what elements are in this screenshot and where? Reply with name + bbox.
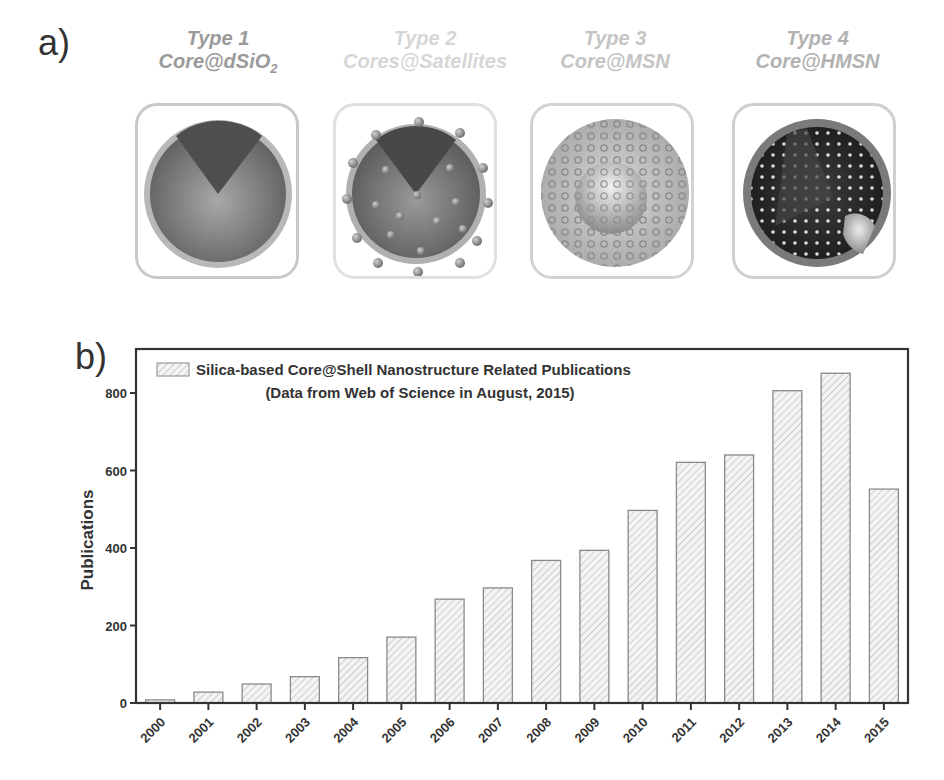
bar-2012 <box>725 455 754 703</box>
x-tick-label: 2011 <box>668 715 699 746</box>
bar-2014 <box>821 373 850 703</box>
bars-group <box>146 373 899 703</box>
bar-2010 <box>628 510 657 703</box>
x-tick-label: 2014 <box>813 714 845 746</box>
legend-swatch <box>157 363 189 376</box>
bar-2001 <box>194 692 223 703</box>
bar-2015 <box>869 489 898 703</box>
x-tick-label: 2003 <box>282 715 313 746</box>
x-tick-label: 2007 <box>475 715 506 746</box>
x-tick-label: 2000 <box>137 715 168 746</box>
bar-2004 <box>339 658 368 703</box>
y-tick-label: 800 <box>105 386 127 401</box>
bar-2009 <box>580 550 609 703</box>
publications-bar-chart: 0200400600800 20002001200220032004200520… <box>0 0 944 780</box>
bar-2005 <box>387 637 416 703</box>
legend-line-1: Silica-based Core@Shell Nanostructure Re… <box>196 361 631 378</box>
x-tick-label: 2008 <box>523 715 554 746</box>
bar-2013 <box>773 391 802 703</box>
y-tick-label: 400 <box>105 541 127 556</box>
bar-2008 <box>532 560 561 703</box>
bar-2003 <box>290 677 319 703</box>
y-axis-label: Publications <box>78 489 97 590</box>
x-tick-label: 2006 <box>427 715 458 746</box>
x-tick-label: 2013 <box>764 715 795 746</box>
legend-line-2: (Data from Web of Science in August, 201… <box>265 384 574 401</box>
bar-2007 <box>483 588 512 703</box>
x-tick-label: 2004 <box>330 714 362 746</box>
x-tick-label: 2015 <box>861 715 892 746</box>
x-axis: 2000200120022003200420052006200720082009… <box>137 703 892 746</box>
x-tick-label: 2001 <box>185 715 216 746</box>
y-tick-label: 600 <box>105 464 127 479</box>
bar-2006 <box>435 599 464 703</box>
x-tick-label: 2010 <box>620 715 651 746</box>
bar-2011 <box>676 462 705 703</box>
y-tick-label: 200 <box>105 619 127 634</box>
x-tick-label: 2005 <box>378 715 409 746</box>
x-tick-label: 2002 <box>234 715 265 746</box>
bar-2002 <box>242 684 271 703</box>
x-tick-label: 2009 <box>571 715 602 746</box>
y-tick-label: 0 <box>120 696 127 711</box>
x-tick-label: 2012 <box>716 715 747 746</box>
y-axis: 0200400600800 <box>105 386 136 711</box>
